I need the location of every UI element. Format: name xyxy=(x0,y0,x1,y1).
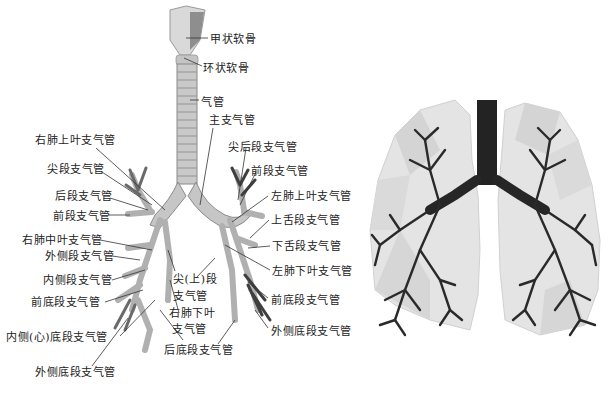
label-right-middle-lobe-bronchus: 右肺中叶支气管 xyxy=(22,234,103,247)
label-right-anterior-basal-bronchus: 前底段支气管 xyxy=(31,296,100,309)
label-left-lower-lobe-bronchus: 左肺下叶支气管 xyxy=(272,265,353,278)
label-left-anterior-segment-bronchus: 前段支气管 xyxy=(251,165,309,178)
label-right-lateral-basal-bronchus: 外侧底段支气管 xyxy=(35,366,116,379)
label-medial-cardiac-basal-bronchus: 内侧(心)底段支气管 xyxy=(6,331,108,344)
label-right-lower-lobe-bronchus-line1: 右肺下叶 xyxy=(169,307,215,320)
label-posterior-segment-bronchus: 后段支气管 xyxy=(55,190,113,203)
label-medial-segment-bronchus: 内侧段支气管 xyxy=(43,274,112,287)
label-trachea: 气管 xyxy=(201,96,224,109)
label-posterior-basal-bronchus: 后底段支气管 xyxy=(164,344,233,357)
label-lateral-segment-bronchus: 外侧段支气管 xyxy=(45,250,114,263)
trachea-dark xyxy=(477,100,497,185)
label-main-bronchus: 主支气管 xyxy=(209,114,255,127)
label-left-lateral-basal-bronchus: 外侧底段支气管 xyxy=(271,325,352,338)
label-right-upper-lobe-bronchus: 右肺上叶支气管 xyxy=(35,134,116,147)
label-anterior-segment-bronchus: 前段支气管 xyxy=(53,210,111,223)
label-apicoposterior-segment-bronchus: 尖后段支气管 xyxy=(228,141,297,154)
label-left-upper-lobe-bronchus: 左肺上叶支气管 xyxy=(271,190,352,203)
label-superior-segment-bronchus-line1: 尖(上)段 xyxy=(173,273,217,286)
label-thyroid-cartilage: 甲状软骨 xyxy=(210,33,256,46)
label-apical-segment-bronchus: 尖段支气管 xyxy=(47,163,105,176)
label-cricoid-cartilage: 环状软骨 xyxy=(203,62,249,75)
label-inferior-lingular-bronchus: 下舌段支气管 xyxy=(272,240,341,253)
label-right-lower-lobe-bronchus-line2: 支气管 xyxy=(172,323,207,336)
label-superior-lingular-bronchus: 上舌段支气管 xyxy=(271,214,340,227)
label-superior-segment-bronchus-line2: 支气管 xyxy=(173,290,208,303)
label-left-anterior-basal-bronchus: 前底段支气管 xyxy=(271,294,340,307)
anatomy-figure: 甲状软骨 环状软骨 气管 主支气管 右肺上叶支气管 尖段支气管 尖后段支气管 前… xyxy=(0,0,611,393)
